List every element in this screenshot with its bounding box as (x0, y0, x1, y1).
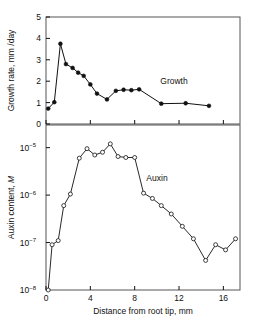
growth-data-point (88, 83, 92, 87)
growth-data-point (129, 88, 133, 92)
x-tick-label-4: 4 (88, 293, 93, 303)
auxin-data-point (214, 243, 218, 247)
growth-data-point (137, 87, 141, 91)
auxin-data-point (204, 258, 208, 262)
x-tick-label-16: 16 (219, 293, 229, 303)
growth-data-point (52, 100, 56, 104)
dual-panel-chart: 01234510−510−610−710−80481216Growth rate… (0, 0, 255, 328)
auxin-data-point (85, 147, 89, 151)
y-tick-label-bottom-1e-6: 10−6 (20, 190, 37, 201)
auxin-data-point (101, 150, 105, 154)
growth-series-label: Growth (160, 76, 188, 86)
auxin-data-point (191, 237, 195, 241)
growth-data-point (184, 101, 188, 105)
growth-data-point (76, 71, 80, 75)
x-tick-label-0: 0 (44, 293, 49, 303)
auxin-series-label: Auxin (146, 173, 168, 183)
auxin-data-point (50, 243, 54, 247)
auxin-data-point (150, 196, 154, 200)
growth-data-point (46, 107, 50, 111)
y-tick-label-bottom-1e-8: 10−8 (20, 285, 37, 296)
auxin-series-line (48, 144, 235, 290)
auxin-data-point (93, 153, 97, 157)
y-tick-label-top-5: 5 (36, 12, 41, 22)
figure-root: 01234510−510−610−710−80481216Growth rate… (0, 0, 255, 328)
y-tick-label-top-1: 1 (36, 98, 41, 108)
growth-data-point (207, 104, 211, 108)
auxin-data-point (133, 155, 137, 159)
auxin-data-point (77, 156, 81, 160)
growth-data-point (64, 62, 68, 66)
auxin-data-point (56, 239, 60, 243)
y-axis-label-top: Growth rate, mm /day (6, 29, 16, 111)
auxin-data-point (169, 212, 173, 216)
growth-data-point (105, 97, 109, 101)
auxin-data-point (116, 155, 120, 159)
bottom-panel-frame (46, 125, 240, 290)
y-axis-label-bottom: Auxin content, M (6, 175, 16, 239)
auxin-data-point (124, 155, 128, 159)
y-tick-label-bottom-1e-7: 10−7 (20, 237, 37, 248)
y-tick-label-top-0: 0 (36, 119, 41, 129)
x-axis-label: Distance from root tip, mm (93, 306, 193, 316)
auxin-data-point (46, 288, 50, 292)
auxin-data-point (224, 248, 228, 252)
y-tick-label-top-4: 4 (36, 33, 41, 43)
growth-data-point (159, 102, 163, 106)
growth-data-point (82, 74, 86, 78)
growth-data-point (95, 92, 99, 96)
auxin-data-point (142, 191, 146, 195)
auxin-data-point (68, 192, 72, 196)
y-tick-label-top-3: 3 (36, 55, 41, 65)
auxin-data-point (234, 237, 238, 241)
growth-data-point (114, 89, 118, 93)
auxin-data-point (108, 142, 112, 146)
auxin-data-point (62, 204, 66, 208)
growth-data-point (71, 66, 75, 70)
growth-data-point (122, 88, 126, 92)
auxin-data-point (180, 224, 184, 228)
auxin-data-point (159, 204, 163, 208)
y-tick-label-top-2: 2 (36, 76, 41, 86)
y-tick-label-bottom-1e-5: 10−5 (20, 142, 37, 153)
x-tick-label-8: 8 (132, 293, 137, 303)
growth-data-point (59, 42, 63, 46)
x-tick-label-12: 12 (174, 293, 184, 303)
